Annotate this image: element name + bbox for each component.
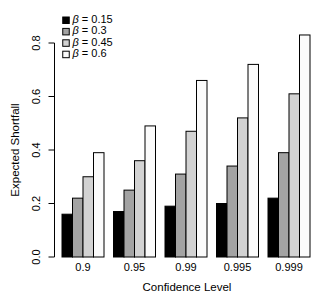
bar-0.99-β = 0.15 — [165, 206, 176, 257]
figure: 0.00.20.40.60.80.90.950.990.9950.999β = … — [0, 0, 324, 306]
legend-label-β = 0.3: β = 0.3 — [72, 24, 107, 36]
x-tick-label: 0.95 — [124, 261, 145, 273]
legend-swatch-β = 0.15 — [63, 17, 70, 24]
legend-swatch-β = 0.45 — [63, 40, 70, 47]
x-tick-label: 0.999 — [275, 261, 303, 273]
bar-0.95-β = 0.45 — [135, 161, 146, 257]
legend-value: = 0.15 — [79, 13, 113, 25]
legend-value: = 0.6 — [79, 47, 107, 59]
bar-0.95-β = 0.6 — [145, 126, 156, 257]
bar-0.99-β = 0.6 — [197, 80, 208, 257]
x-tick-label: 0.9 — [75, 261, 90, 273]
x-axis-title: Confidence Level — [143, 281, 232, 293]
bar-0.995-β = 0.3 — [227, 166, 238, 257]
legend-swatch-β = 0.3 — [63, 28, 70, 35]
bar-0.9-β = 0.15 — [62, 214, 73, 257]
bar-0.95-β = 0.15 — [114, 212, 125, 257]
y-tick-label: 0.8 — [30, 35, 42, 50]
legend-swatch-β = 0.6 — [63, 51, 70, 58]
y-tick-label: 0.4 — [30, 142, 42, 157]
bar-0.995-β = 0.15 — [217, 204, 228, 258]
bar-0.9-β = 0.45 — [83, 177, 94, 257]
bar-0.999-β = 0.6 — [300, 35, 311, 257]
legend-label-β = 0.15: β = 0.15 — [72, 13, 113, 25]
legend-value: = 0.45 — [79, 36, 113, 48]
y-tick-label: 0.0 — [30, 249, 42, 264]
bar-0.995-β = 0.6 — [248, 64, 259, 257]
bar-0.99-β = 0.3 — [176, 174, 187, 257]
bar-chart: 0.00.20.40.60.80.90.950.990.9950.999β = … — [0, 0, 324, 306]
legend-value: = 0.3 — [79, 24, 107, 36]
legend-label-β = 0.6: β = 0.6 — [72, 47, 107, 59]
bar-0.95-β = 0.3 — [124, 190, 135, 257]
legend-label-β = 0.45: β = 0.45 — [72, 36, 113, 48]
bar-0.9-β = 0.6 — [94, 153, 105, 257]
y-tick-label: 0.6 — [30, 89, 42, 104]
bar-0.995-β = 0.45 — [238, 118, 249, 257]
y-tick-label: 0.2 — [30, 196, 42, 211]
x-tick-label: 0.995 — [224, 261, 252, 273]
bar-0.999-β = 0.3 — [279, 153, 290, 257]
chart-render-root: 0.00.20.40.60.80.90.950.990.9950.999β = … — [30, 13, 311, 273]
bar-0.999-β = 0.45 — [289, 94, 300, 257]
bar-0.999-β = 0.15 — [268, 198, 279, 257]
bar-0.9-β = 0.3 — [73, 198, 84, 257]
x-tick-label: 0.99 — [175, 261, 196, 273]
bar-0.99-β = 0.45 — [186, 131, 197, 257]
y-axis-title: Expected Shortfall — [9, 103, 21, 196]
